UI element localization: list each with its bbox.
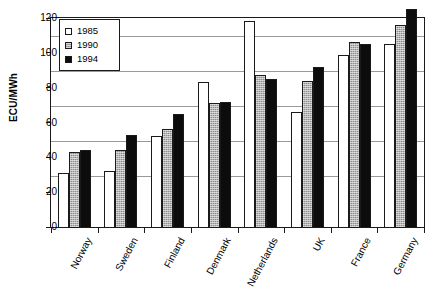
bar-group-france xyxy=(338,18,371,227)
bar-chart: ECU/MWh 120 100 80 60 40 20 0 NorwaySwed… xyxy=(0,0,438,295)
bar-netherlands-1990 xyxy=(255,75,266,227)
legend-label-1994: 1994 xyxy=(77,54,98,64)
legend: 1985 1990 1994 xyxy=(59,19,120,71)
legend-swatch-1994-icon xyxy=(65,56,72,63)
bar-sweden-1990 xyxy=(115,150,126,227)
bar-france-1994 xyxy=(360,44,371,227)
bar-germany-1985 xyxy=(384,44,395,227)
bar-denmark-1994 xyxy=(220,102,231,227)
bar-uk-1990 xyxy=(302,81,313,227)
bar-sweden-1994 xyxy=(126,135,137,227)
bar-group-finland xyxy=(151,18,184,227)
bar-norway-1985 xyxy=(58,173,69,227)
bar-finland-1994 xyxy=(173,114,184,227)
bar-denmark-1990 xyxy=(209,103,220,227)
bar-norway-1990 xyxy=(69,152,80,227)
legend-swatch-1985-icon xyxy=(65,28,72,35)
bar-group-denmark xyxy=(198,18,231,227)
legend-item-1994: 1994 xyxy=(65,52,115,66)
legend-item-1990: 1990 xyxy=(65,38,115,52)
bar-netherlands-1994 xyxy=(266,79,277,227)
bar-germany-1990 xyxy=(395,25,406,227)
bar-sweden-1985 xyxy=(104,171,115,227)
bar-france-1990 xyxy=(349,42,360,227)
bar-france-1985 xyxy=(338,55,349,227)
bar-group-netherlands xyxy=(244,18,277,227)
bar-denmark-1985 xyxy=(198,82,209,227)
legend-label-1990: 1990 xyxy=(77,40,98,50)
bar-group-germany xyxy=(384,18,417,227)
legend-label-1985: 1985 xyxy=(77,26,98,36)
bar-norway-1994 xyxy=(80,150,91,227)
bar-finland-1990 xyxy=(162,129,173,227)
bar-uk-1994 xyxy=(313,67,324,227)
legend-swatch-1990-icon xyxy=(65,42,72,49)
x-tick-0 xyxy=(51,228,52,233)
bar-netherlands-1985 xyxy=(244,21,255,227)
legend-item-1985: 1985 xyxy=(65,24,115,38)
bar-germany-1994 xyxy=(406,9,417,227)
